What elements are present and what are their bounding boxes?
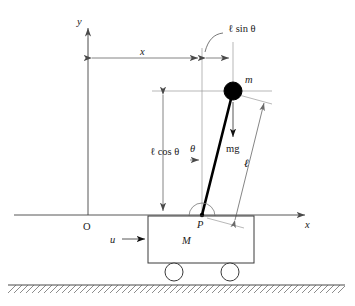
y-axis-label: y [76, 16, 82, 27]
inverted-pendulum-diagram: y x O x ℓ sin θ [0, 0, 355, 306]
cart-wheels [165, 263, 239, 281]
ground-hatching [8, 285, 345, 293]
input-force-annotation: u [110, 234, 145, 245]
mg-label: mg [226, 143, 240, 154]
cart-mass-label: M [181, 235, 192, 246]
ground [8, 285, 345, 293]
figure-root: y x O x ℓ sin θ [0, 0, 355, 306]
rod-length-ext-top [239, 95, 272, 104]
pivot-label: P [196, 219, 204, 230]
l-sin-theta-leader [205, 33, 223, 52]
x-axis-label: x [304, 219, 310, 230]
pendulum-bob [224, 82, 242, 100]
dimension-x: x [92, 46, 198, 58]
dimension-l-cos-theta: ℓ cos θ [150, 95, 179, 211]
dimension-rod-length: ℓ [207, 95, 272, 228]
dimension-l-sin-theta: ℓ sin θ [205, 23, 256, 58]
rod-length-dimension-line [235, 103, 264, 220]
x-dimension-label: x [139, 46, 145, 57]
origin-label: O [83, 221, 91, 232]
angle-theta-annotation: θ [190, 143, 199, 160]
l-cos-theta-label: ℓ cos θ [150, 146, 179, 157]
l-sin-theta-label: ℓ sin θ [228, 23, 256, 34]
bob-mass-label: m [245, 74, 253, 85]
rod-length-label: ℓ [244, 157, 249, 169]
wheel-right [221, 263, 239, 281]
reference-lines [88, 38, 272, 215]
pivot-dot [200, 213, 204, 217]
u-label: u [110, 234, 115, 245]
coordinate-axes: y x O [14, 16, 310, 232]
rod-length-ext-bottom [207, 218, 244, 228]
theta-label: θ [190, 143, 195, 154]
wheel-left [165, 263, 183, 281]
